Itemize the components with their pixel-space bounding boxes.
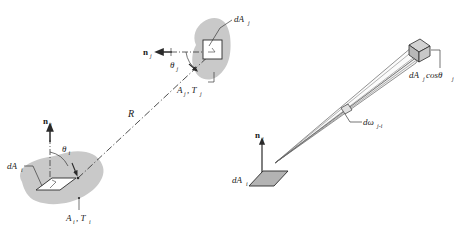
distance-line-R — [78, 52, 213, 178]
label-projected-area-cos-sub: j — [451, 76, 454, 82]
solid-angle-leader — [345, 114, 362, 122]
label-normal-j: n — [143, 47, 148, 57]
label-surface-i-temp-sub: i — [89, 219, 91, 225]
right-label-normal-i: n — [255, 130, 260, 140]
label-theta-j: θ — [170, 60, 175, 70]
label-solid-angle-sub: j-i — [376, 123, 383, 129]
label-distance-R: R — [127, 108, 134, 119]
label-surface-j: A — [176, 85, 183, 95]
label-surface-i-temp: , T — [76, 213, 87, 223]
right-label-dA-i-sub: i — [246, 181, 248, 187]
right-dA-i-patch — [249, 171, 288, 186]
label-normal-i-sub: i — [50, 122, 52, 128]
label-dA-j-sub: j — [247, 20, 250, 26]
label-projected-area-sub: j — [422, 76, 425, 82]
label-solid-angle: dω — [363, 117, 374, 127]
label-surface-j-sub: j — [183, 91, 186, 97]
label-dA-j: dA — [234, 14, 245, 24]
label-projected-area: dA — [409, 70, 420, 80]
right-diagram-group: n i dA i dω j-i dA j cosθ j — [232, 39, 454, 187]
projected-area-leader — [431, 50, 440, 68]
dA-j-patch — [203, 40, 222, 59]
label-projected-area-cos: cosθ — [426, 70, 443, 80]
label-theta-j-sub: j — [176, 66, 179, 72]
label-dA-i: dA — [7, 161, 18, 171]
radiation-view-factor-figure: n i θ i dA i A i , T i R n j θ j dA j A … — [0, 0, 456, 230]
label-theta-i: θ — [62, 144, 67, 154]
label-normal-j-sub: j — [149, 53, 152, 59]
surface-i-leader-dot — [78, 197, 80, 199]
right-label-dA-i: dA — [232, 175, 243, 185]
label-surface-i-sub: i — [73, 219, 75, 225]
label-surface-i: A — [65, 213, 72, 223]
left-diagram-group: n i θ i dA i A i , T i R n j θ j dA j A … — [7, 14, 250, 225]
right-label-normal-i-sub: i — [262, 136, 264, 142]
label-surface-j-temp: , T — [187, 85, 198, 95]
label-surface-j-temp-sub: j — [199, 91, 202, 97]
label-normal-i: n — [43, 116, 48, 126]
vertex-i-dot — [77, 177, 80, 180]
